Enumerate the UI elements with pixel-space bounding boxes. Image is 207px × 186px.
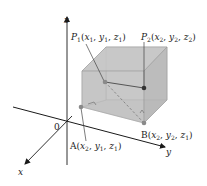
point-p1: [103, 80, 108, 85]
diagram-canvas: z y x 0 P1(x1, y1, z1) P2(x2, y2, z2) A(…: [0, 0, 207, 186]
y-axis-label: y: [165, 147, 172, 157]
label-p2: P2(x2, y2, z2): [140, 32, 196, 43]
x-axis-label: x: [18, 167, 23, 177]
point-b: [142, 121, 147, 126]
origin-label: 0: [54, 122, 60, 132]
z-axis-label: z: [63, 15, 69, 25]
point-a: [79, 105, 84, 110]
label-b: B(x2, y2, z1): [141, 130, 193, 141]
label-a: A(x2, y1, z1): [69, 141, 121, 152]
label-p1: P1(x1, y1, z1): [70, 32, 126, 43]
point-p2: [142, 86, 147, 91]
box-front-face: [82, 71, 144, 123]
x-axis: [25, 116, 72, 164]
leader-a: [81, 108, 86, 141]
